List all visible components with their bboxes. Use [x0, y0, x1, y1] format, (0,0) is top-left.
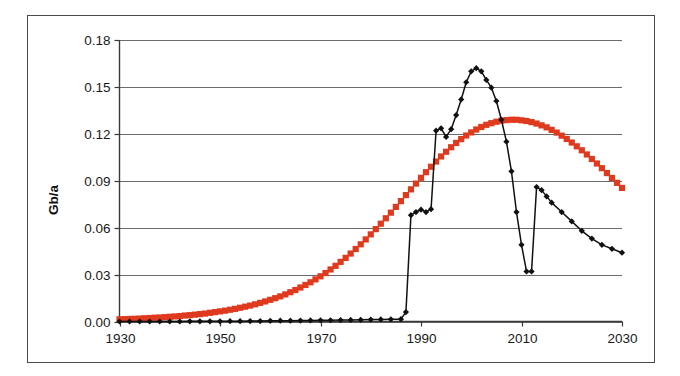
data-marker [378, 221, 384, 227]
y-axis-title: Gb/a [46, 185, 61, 215]
data-marker [418, 175, 424, 181]
data-marker [619, 250, 625, 256]
y-tick-label-0.18: 0.18 [84, 33, 110, 48]
data-marker [388, 210, 394, 216]
y-tick-label-0.06: 0.06 [84, 221, 110, 236]
y-tick-label-0.12: 0.12 [84, 127, 110, 142]
data-marker [403, 192, 409, 198]
x-tick-labels-group: 193019501970199020102030 [105, 331, 637, 346]
y-tick-label-0.09: 0.09 [84, 174, 110, 189]
data-marker [493, 98, 499, 104]
data-marker [458, 96, 464, 102]
data-marker [207, 318, 213, 324]
data-marker [428, 206, 434, 212]
data-marker [257, 318, 263, 324]
x-tick-label-1930: 1930 [105, 331, 135, 346]
data-marker [508, 168, 514, 174]
y-tick-label-0.15: 0.15 [84, 80, 110, 95]
x-tick-label-1970: 1970 [306, 331, 336, 346]
data-marker [227, 318, 233, 324]
data-marker [609, 246, 615, 252]
x-tick-label-2030: 2030 [607, 331, 637, 346]
data-marker [408, 186, 414, 192]
data-marker [453, 112, 459, 118]
y-tick-label-0.03: 0.03 [84, 268, 110, 283]
data-marker [503, 139, 509, 145]
data-marker [518, 242, 524, 248]
data-marker [247, 318, 253, 324]
chart-canvas: 0.000.030.060.090.120.150.18 19301950197… [0, 0, 680, 376]
x-tick-label-1990: 1990 [406, 331, 436, 346]
data-marker [393, 204, 399, 210]
data-marker [237, 318, 243, 324]
data-series-group [116, 65, 625, 325]
y-tickmarks-group [115, 41, 120, 323]
data-marker [197, 318, 203, 324]
data-marker [423, 169, 429, 175]
x-tick-label-2010: 2010 [507, 331, 537, 346]
data-marker [619, 185, 625, 191]
series-model-curve [116, 117, 625, 323]
gridlines-group [120, 41, 623, 323]
data-marker [373, 226, 379, 232]
data-marker [187, 318, 193, 324]
y-tick-label-0.00: 0.00 [84, 315, 110, 330]
series-production-history [116, 65, 625, 325]
data-marker [528, 268, 534, 274]
x-tick-label-1950: 1950 [205, 331, 235, 346]
data-marker [513, 209, 519, 215]
data-marker [217, 318, 223, 324]
data-marker [463, 79, 469, 85]
figure-root: 0.000.030.060.090.120.150.18 19301950197… [0, 0, 680, 376]
data-marker [398, 198, 404, 204]
y-tick-labels-group: 0.000.030.060.090.120.150.18 [84, 33, 110, 330]
data-marker [383, 215, 389, 221]
data-marker [267, 318, 273, 324]
data-marker [413, 180, 419, 186]
